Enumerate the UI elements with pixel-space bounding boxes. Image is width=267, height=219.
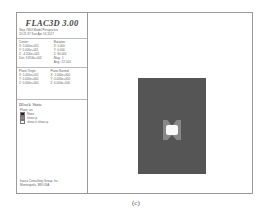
divider xyxy=(17,99,87,100)
divider xyxy=(17,38,87,39)
timestamp: 20:21:37 Sun Apr 16 2017 xyxy=(19,32,58,36)
excavation-hole xyxy=(166,125,178,135)
flac3d-plot-window: FLAC3D 3.00 Step 7663 Model Perspective … xyxy=(16,12,253,194)
plane-params: Plane Origin: X: 5.000e+001 Y: 0.000e+00… xyxy=(19,69,70,85)
app-title: FLAC3D 3.00 xyxy=(17,18,87,28)
view-params: Center: X: 5.000e+001 Y: 5.000e+001 Z: -… xyxy=(19,40,71,64)
ang-value: Ang.: 22.500 xyxy=(54,60,71,64)
normal-z: Z: 0.000e+000 xyxy=(51,81,71,85)
legend: None shear-p shear-n shear-p xyxy=(20,112,48,124)
model-block xyxy=(138,78,206,174)
info-panel: FLAC3D 3.00 Step 7663 Model Perspective … xyxy=(17,13,88,193)
swatch-icon xyxy=(20,120,25,124)
origin-z: Z: 0.000e+000 xyxy=(19,81,39,85)
figure-caption: (c) xyxy=(132,199,140,207)
dist-value: Dist: 3.816e+002 xyxy=(19,56,42,60)
legend-title: Block State xyxy=(19,102,42,107)
legend-label: shear-n shear-p xyxy=(27,120,48,124)
legend-item-shear-n-shear-p: shear-n shear-p xyxy=(20,120,48,124)
divider xyxy=(17,67,87,68)
footer: Itasca Consulting Group, Inc. Minneapoli… xyxy=(20,179,59,187)
model-view xyxy=(88,13,252,193)
company-location: Minneapolis, MN USA xyxy=(20,183,59,187)
header-info: Step 7663 Model Perspective 20:21:37 Sun… xyxy=(19,28,58,36)
